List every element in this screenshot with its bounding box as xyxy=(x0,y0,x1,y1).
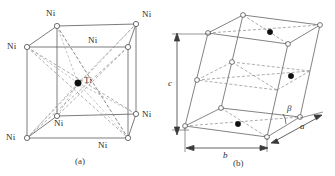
guide-center-bbl xyxy=(57,83,78,116)
b-edge-bottom-4 xyxy=(185,126,267,137)
edge-connect-top-left xyxy=(27,26,57,47)
caption-panel-b: (b) xyxy=(233,158,244,168)
b-atom-open-top-front-right xyxy=(286,42,291,47)
label-ni-bottom-back-left: Ni xyxy=(54,119,63,128)
atom-ni-top-front-left xyxy=(24,44,29,49)
label-ni-top-front-right: Ni xyxy=(88,36,97,45)
b-atom-open-bottom-back-right xyxy=(298,115,303,120)
panel-a-drawing xyxy=(0,0,170,176)
diagonal-ftr-bbl xyxy=(57,47,128,116)
b-atom-open-bottom-back-left xyxy=(219,106,224,111)
label-ni-bottom-back-right: Ni xyxy=(142,110,151,119)
atom-ni-top-front-right xyxy=(125,44,130,49)
b-atom-filled-middle xyxy=(288,73,293,78)
b-atom-open-top-back-left xyxy=(241,13,246,18)
edge-connect-top-right xyxy=(128,24,136,47)
edge-back-top xyxy=(57,24,136,26)
b-atom-filled-bottom xyxy=(235,121,240,126)
caption-panel-a: (a) xyxy=(75,156,85,166)
dim-b-arrow-left xyxy=(186,145,194,150)
b-atom-open-mid-back-left xyxy=(230,60,235,65)
b-mid-edge-1 xyxy=(197,62,232,80)
atom-ni-top-back-right xyxy=(133,21,138,26)
guide-center-fbr xyxy=(78,83,128,138)
label-lattice-b: b xyxy=(223,150,228,160)
edge-connect-bottom-left xyxy=(27,116,57,138)
edge-back-bottom xyxy=(57,114,136,116)
guide-center-bbr xyxy=(78,83,136,114)
b-edge-vert-4 xyxy=(267,44,288,137)
b-top-diag-2 xyxy=(243,15,288,44)
atom-ni-bottom-back-right xyxy=(133,111,138,116)
crystal-structure-figure: Ni Ni Ni Ni Ni Ni Ni Ni Ti (a) xyxy=(0,0,335,176)
atom-ti-center xyxy=(75,80,81,86)
b-atom-filled-top xyxy=(267,29,272,34)
edge-connect-bottom-right xyxy=(128,114,136,138)
label-ni-top-back-left: Ni xyxy=(46,9,55,18)
label-angle-beta: β xyxy=(287,103,291,113)
dim-c-arrow-bottom xyxy=(174,127,179,135)
b-atom-open-top-front-left xyxy=(206,31,211,36)
guide-center-fbl xyxy=(27,83,78,138)
b-atom-open-mid-front-left xyxy=(195,78,200,83)
dim-a-line xyxy=(275,118,317,141)
b-mid-edge-2 xyxy=(232,62,310,71)
b-atom-open-top-back-right xyxy=(318,23,323,28)
label-lattice-a: a xyxy=(300,121,305,131)
b-top-diag-1 xyxy=(208,25,320,33)
guide-center-ftl xyxy=(27,47,78,83)
panel-b-drawing xyxy=(165,0,335,176)
label-lattice-c: c xyxy=(168,78,172,88)
diagonal-fbl-btr xyxy=(27,24,136,138)
b-mid-diag-2 xyxy=(232,62,277,90)
atom-ni-bottom-front-right xyxy=(125,135,130,140)
b-edge-top-4 xyxy=(208,33,288,44)
atom-ni-top-back-left xyxy=(54,23,59,28)
b-edge-bottom-3 xyxy=(267,117,300,137)
panel-a-cubic-cell: Ni Ni Ni Ni Ni Ni Ni Ni Ti (a) xyxy=(0,0,170,176)
label-ni-bottom-front-left: Ni xyxy=(6,133,15,142)
b-edge-top-3 xyxy=(288,25,320,44)
b-mid-edge-3 xyxy=(277,71,310,90)
atom-ni-bottom-front-left xyxy=(24,135,29,140)
label-ti-center: Ti xyxy=(84,76,92,85)
b-mid-edge-4 xyxy=(197,80,277,90)
b-edge-top-1 xyxy=(208,15,243,33)
label-ni-top-back-right: Ni xyxy=(142,10,151,19)
label-ni-top-front-left: Ni xyxy=(7,42,16,51)
panel-b-monoclinic-cell: c b a β (b) xyxy=(165,0,335,176)
label-ni-bottom-front-right: Ni xyxy=(98,141,107,150)
b-edge-top-2 xyxy=(243,15,320,25)
